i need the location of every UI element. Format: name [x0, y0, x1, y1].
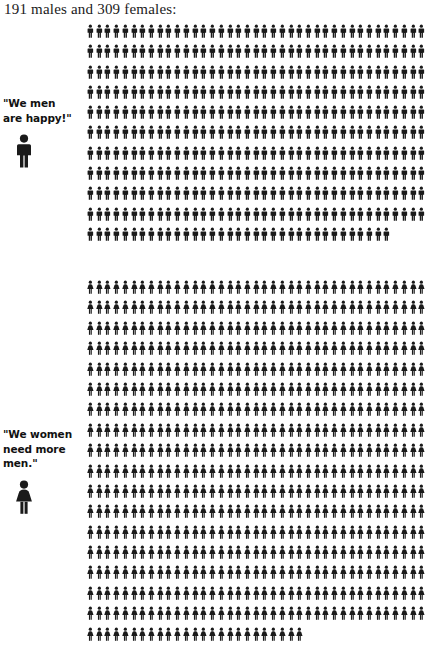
male-figure-icon: [417, 183, 426, 203]
male-figure-icon: [217, 163, 226, 183]
female-figure-icon: [103, 359, 112, 379]
female-figure-icon: [182, 318, 191, 338]
male-figure-icon: [260, 21, 269, 41]
female-figure-icon: [173, 440, 182, 460]
female-figure-icon: [287, 461, 296, 481]
male-figure-icon: [226, 62, 235, 82]
female-figure-icon: [391, 338, 400, 358]
female-figure-icon: [295, 440, 304, 460]
male-figure-icon: [304, 204, 313, 224]
male-figure-icon: [121, 41, 130, 61]
male-figure-icon: [147, 62, 156, 82]
female-figure-icon: [191, 440, 200, 460]
female-figure-icon: [400, 461, 409, 481]
female-figure-icon: [330, 562, 339, 582]
female-figure-icon: [304, 399, 313, 419]
female-figure-icon: [86, 461, 95, 481]
female-figure-icon: [226, 379, 235, 399]
female-figure-icon: [95, 399, 104, 419]
female-figure-icon: [243, 338, 252, 358]
female-figure-icon: [156, 318, 165, 338]
female-figure-icon: [164, 603, 173, 623]
female-figure-icon: [330, 359, 339, 379]
female-figure-icon: [252, 338, 261, 358]
pictogram-row: [86, 481, 426, 501]
male-figure-icon: [252, 102, 261, 122]
female-figure-icon: [234, 481, 243, 501]
female-figure-icon: [374, 522, 383, 542]
male-figure-icon: [182, 204, 191, 224]
female-figure-icon: [234, 542, 243, 562]
female-figure-icon: [86, 522, 95, 542]
male-figure-icon: [365, 204, 374, 224]
male-figure-icon: [86, 21, 95, 41]
male-figure-icon: [382, 122, 391, 142]
female-figure-icon: [147, 624, 156, 644]
female-figure-icon: [226, 583, 235, 603]
female-figure-icon: [217, 379, 226, 399]
female-figure-icon: [121, 297, 130, 317]
male-figure-icon: [295, 143, 304, 163]
female-figure-icon: [409, 297, 418, 317]
male-figure-icon: [86, 41, 95, 61]
male-figure-icon: [278, 122, 287, 142]
female-figure-icon: [243, 277, 252, 297]
female-figure-icon: [321, 338, 330, 358]
male-figure-icon: [147, 163, 156, 183]
male-figure-icon: [278, 204, 287, 224]
female-figure-icon: [199, 501, 208, 521]
male-figure-icon: [164, 62, 173, 82]
male-figure-icon: [191, 163, 200, 183]
female-figure-icon: [348, 440, 357, 460]
female-figure-icon: [164, 338, 173, 358]
female-figure-icon: [103, 583, 112, 603]
male-figure-icon: [95, 163, 104, 183]
male-figure-icon: [339, 163, 348, 183]
female-figure-icon: [321, 420, 330, 440]
male-figure-icon: [313, 41, 322, 61]
female-figure-icon: [304, 461, 313, 481]
female-figure-icon: [278, 583, 287, 603]
female-figure-icon: [313, 583, 322, 603]
male-figure-icon: [147, 102, 156, 122]
female-figure-icon: [304, 277, 313, 297]
female-figure-icon: [191, 338, 200, 358]
female-figure-icon: [234, 420, 243, 440]
female-figure-icon: [330, 277, 339, 297]
male-figure-icon: [226, 21, 235, 41]
female-figure-icon: [95, 562, 104, 582]
female-figure-icon: [199, 481, 208, 501]
female-figure-icon: [391, 603, 400, 623]
female-figure-icon: [330, 399, 339, 419]
female-figure-icon: [374, 318, 383, 338]
male-figure-icon: [112, 62, 121, 82]
female-figure-icon: [199, 461, 208, 481]
female-figure-icon: [391, 359, 400, 379]
female-figure-icon: [164, 420, 173, 440]
female-figure-icon: [400, 562, 409, 582]
male-figure-icon: [95, 224, 104, 244]
female-figure-icon: [103, 624, 112, 644]
female-figure-icon: [103, 481, 112, 501]
female-figure-icon: [112, 379, 121, 399]
male-figure-icon: [330, 122, 339, 142]
female-figure-icon: [365, 297, 374, 317]
female-figure-icon: [348, 399, 357, 419]
male-figure-icon: [260, 82, 269, 102]
female-figure-icon: [304, 481, 313, 501]
female-figure-icon: [217, 359, 226, 379]
female-figure-icon: [252, 542, 261, 562]
female-figure-icon: [339, 318, 348, 338]
female-figure-icon: [382, 440, 391, 460]
female-figure-icon: [339, 583, 348, 603]
female-figure-icon: [130, 399, 139, 419]
female-figure-icon: [191, 399, 200, 419]
female-figure-icon: [374, 359, 383, 379]
female-figure-icon: [252, 624, 261, 644]
male-figure-icon: [226, 163, 235, 183]
female-figure-icon: [252, 562, 261, 582]
male-figure-icon: [147, 41, 156, 61]
female-figure-icon: [147, 338, 156, 358]
male-figure-icon: [182, 183, 191, 203]
male-figure-icon: [365, 163, 374, 183]
